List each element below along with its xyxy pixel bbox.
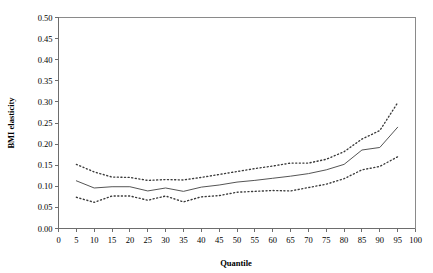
- y-tick-label: 0.30: [38, 97, 53, 107]
- x-tick-label: 55: [251, 235, 260, 245]
- y-tick-label: 0.05: [38, 202, 53, 212]
- x-tick-label: 70: [304, 235, 313, 245]
- bmi-elasticity-quantile-chart: 0.000.050.100.150.200.250.300.350.400.45…: [0, 0, 433, 273]
- x-tick-label: 85: [358, 235, 367, 245]
- x-tick-label: 50: [233, 235, 242, 245]
- x-tick-label: 5: [74, 235, 78, 245]
- x-tick-label: 95: [393, 235, 402, 245]
- x-tick-label: 0: [56, 235, 60, 245]
- x-tick-label: 10: [90, 235, 99, 245]
- x-tick-label: 30: [161, 235, 170, 245]
- y-tick-label: 0.45: [38, 34, 53, 44]
- x-tick-labels: 0510152025303540455055606570758085909510…: [56, 235, 422, 245]
- x-tick-label: 35: [179, 235, 188, 245]
- x-tick-label: 15: [108, 235, 117, 245]
- plot-frame: [59, 18, 416, 229]
- x-tick-label: 90: [376, 235, 385, 245]
- y-tick-label: 0.10: [38, 181, 53, 191]
- y-tick-label: 0.25: [38, 118, 53, 128]
- x-tick-label: 40: [197, 235, 206, 245]
- x-tick-label: 20: [126, 235, 135, 245]
- x-tick-label: 25: [144, 235, 153, 245]
- x-tick-label: 75: [322, 235, 331, 245]
- x-tick-label: 60: [268, 235, 277, 245]
- y-tick-label: 0.50: [38, 13, 53, 23]
- x-tick-label: 80: [340, 235, 349, 245]
- series-line: [76, 103, 397, 181]
- chart-svg: 0.000.050.100.150.200.250.300.350.400.45…: [0, 0, 433, 273]
- series-line: [76, 157, 397, 203]
- y-tick-label: 0.20: [38, 139, 53, 149]
- y-tick-label: 0.40: [38, 55, 53, 65]
- series-line: [76, 127, 397, 191]
- y-tick-label: 0.15: [38, 160, 53, 170]
- y-axis-title: BMI elasticity: [6, 97, 16, 149]
- y-tick-label: 0.00: [38, 224, 53, 234]
- y-tick-labels: 0.000.050.100.150.200.250.300.350.400.45…: [38, 13, 53, 234]
- data-series: [76, 103, 397, 203]
- x-tick-label: 100: [409, 235, 422, 245]
- y-tick-label: 0.35: [38, 76, 53, 86]
- axis-ticks: [55, 18, 416, 233]
- x-axis-title: Quantile: [220, 258, 252, 268]
- x-tick-label: 65: [286, 235, 295, 245]
- x-tick-label: 45: [215, 235, 224, 245]
